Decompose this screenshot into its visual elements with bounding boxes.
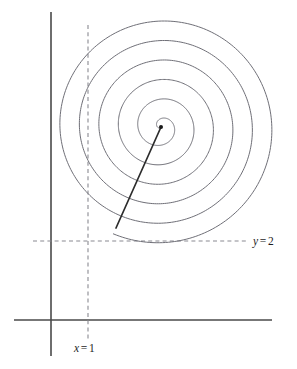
y-label-operator: = (258, 235, 268, 247)
y-label-value: 2 (268, 235, 274, 247)
x-label-operator: = (79, 342, 89, 354)
x-label-value: 1 (89, 342, 95, 354)
x-reference-label: x=1 (74, 342, 95, 354)
figure-canvas (0, 0, 297, 369)
spiral-figure: y=2 x=1 (0, 0, 297, 369)
spiral-curve (60, 21, 272, 243)
y-reference-label: y=2 (253, 235, 274, 247)
spiral-center-dot (159, 125, 163, 129)
